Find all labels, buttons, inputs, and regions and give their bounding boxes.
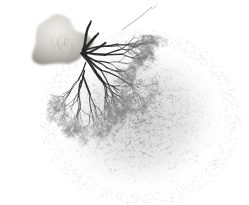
vascular-cast-vectors xyxy=(0,0,249,205)
specimen-figure: Grayscale photograph of a branching vasc… xyxy=(0,0,249,205)
